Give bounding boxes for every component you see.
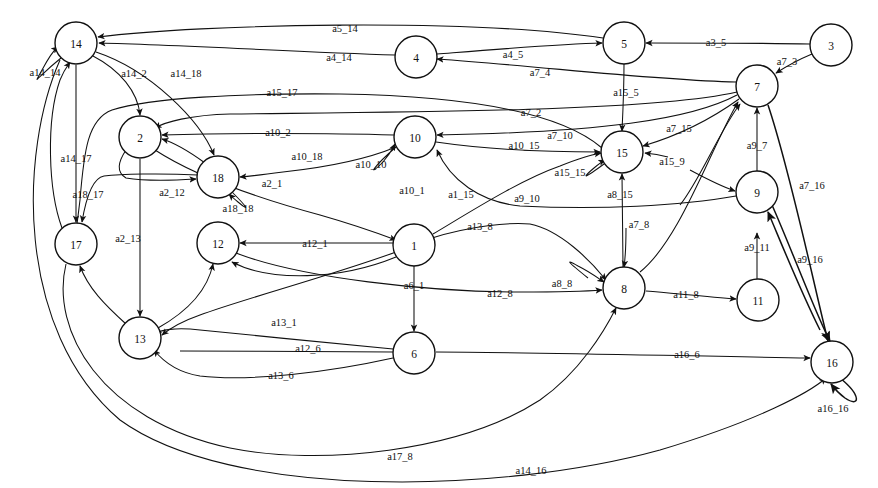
edge-label-a12_8: a12_8	[487, 288, 513, 299]
edge-label-a14_2: a14_2	[121, 68, 147, 79]
edge-label-a14_17: a14_17	[61, 153, 92, 164]
edge-label-a9_11: a9_11	[744, 242, 769, 253]
edge-a13-17	[80, 266, 126, 324]
edge-a9-10	[437, 150, 736, 208]
edge-label-a1_15: a1_15	[448, 189, 474, 200]
edge-label-a13_8: a13_8	[467, 221, 493, 232]
edge-label-a15_5: a15_5	[613, 87, 639, 98]
node-5[interactable]: 5	[603, 22, 645, 64]
edge-label-a18_18: a18_18	[223, 203, 254, 214]
edge-label-a14_14: a14_14	[30, 67, 62, 78]
node-label-2: 2	[137, 132, 143, 144]
edge-label-a7_2: a7_2	[521, 107, 541, 118]
edge-a15-15	[586, 160, 605, 176]
edge-label-a8_8: a8_8	[552, 278, 572, 289]
node-8[interactable]: 8	[603, 267, 645, 309]
edge-label-a15_15: a15_15	[555, 167, 586, 178]
edge-a17-8	[63, 264, 616, 455]
edge-label-a10_2: a10_2	[265, 127, 291, 138]
edge-a7-4	[437, 59, 736, 82]
edge-label-a11_8: a11_8	[673, 289, 698, 300]
edge-label-a18_17: a18_17	[73, 189, 104, 200]
edge-a15-5	[622, 64, 624, 131]
edge-label-a10_18: a10_18	[292, 151, 323, 162]
edge-label-a7_8: a7_8	[629, 219, 649, 230]
edge-a18-2	[162, 139, 205, 163]
node-4[interactable]: 4	[395, 36, 437, 78]
node-label-15: 15	[616, 147, 628, 159]
edge-label-a16_6: a16_6	[674, 349, 700, 360]
node-label-3: 3	[828, 40, 834, 52]
edge-label-a13_6: a13_6	[268, 370, 294, 381]
edge-label-a2_1: a2_1	[262, 178, 282, 189]
edge-layer	[33, 25, 856, 482]
edge-label-a15_17: a15_17	[267, 87, 298, 98]
edge-a17-14	[50, 62, 70, 228]
node-label-8: 8	[621, 283, 627, 295]
edge-label-a16_16: a16_16	[818, 403, 849, 414]
node-label-1: 1	[411, 240, 417, 252]
node-16[interactable]: 16	[811, 341, 853, 383]
node-1[interactable]: 1	[393, 224, 435, 266]
edge-label-a9_10: a9_10	[514, 193, 540, 204]
node-2[interactable]: 2	[119, 116, 161, 158]
node-label-4: 4	[413, 52, 419, 64]
edge-label-a17_8: a17_8	[387, 451, 413, 462]
edge-label-a2_12: a2_12	[159, 187, 185, 198]
edge-label-a2_13: a2_13	[115, 233, 141, 244]
edge-label-a7_4: a7_4	[530, 67, 551, 78]
node-label-5: 5	[621, 38, 627, 50]
edge-label-a7_16: a7_16	[799, 180, 825, 191]
edge-label-a3_5: a3_5	[706, 37, 726, 48]
edge-label-layer: a14_14a5_14a4_14a14_2a14_18a14_17a18_17a…	[30, 23, 849, 476]
node-14[interactable]: 14	[55, 22, 97, 64]
edge-label-a8_15: a8_15	[607, 189, 633, 200]
node-label-9: 9	[754, 187, 760, 199]
node-13[interactable]: 13	[119, 317, 161, 359]
edge-label-a9_16: a9_16	[797, 254, 823, 265]
edge-label-a9_7: a9_7	[747, 140, 767, 151]
edge-label-a15_9: a15_9	[659, 156, 685, 167]
node-9[interactable]: 9	[736, 171, 778, 213]
state-transition-diagram: 144537210151891211781113616 a14_14a5_14a…	[0, 0, 878, 488]
edge-label-a14_18: a14_18	[171, 68, 202, 79]
edge-label-a7_10: a7_10	[547, 130, 573, 141]
edge-a7-10	[437, 95, 737, 135]
edge-a7-8	[624, 228, 626, 267]
node-label-17: 17	[70, 239, 82, 251]
edge-label-a4_5: a4_5	[503, 49, 523, 60]
edge-a16-6	[436, 352, 810, 358]
node-7[interactable]: 7	[736, 65, 778, 107]
edge-a7-2	[155, 92, 737, 128]
node-11[interactable]: 11	[737, 279, 779, 321]
edge-label-a10_1: a10_1	[399, 185, 425, 196]
edge-a14-2	[93, 56, 140, 115]
edge-label-a10_15: a10_15	[509, 140, 540, 151]
node-label-7: 7	[754, 81, 760, 93]
node-label-12: 12	[212, 238, 224, 250]
edge-label-a4_14: a4_14	[326, 52, 352, 63]
node-6[interactable]: 6	[393, 332, 435, 374]
edge-label-a12_6: a12_6	[295, 343, 321, 354]
node-12[interactable]: 12	[197, 222, 239, 264]
edge-label-a7_15: a7_15	[666, 123, 692, 134]
edge-label-a12_1: a12_1	[302, 238, 328, 249]
node-18[interactable]: 18	[197, 156, 239, 198]
edge-a15-9	[690, 170, 735, 191]
edge-label-a7_3: a7_3	[777, 56, 797, 67]
node-label-18: 18	[212, 172, 224, 184]
edge-label-a14_16: a14_16	[516, 465, 547, 476]
node-15[interactable]: 15	[601, 131, 643, 173]
edge-label-a5_14: a5_14	[332, 23, 358, 34]
node-label-14: 14	[70, 38, 82, 50]
node-17[interactable]: 17	[55, 223, 97, 265]
edge-label-a6_1: a6_1	[404, 280, 424, 291]
edge-label-a13_1: a13_1	[271, 317, 297, 328]
node-10[interactable]: 10	[394, 116, 436, 158]
edge-a3-5	[646, 43, 810, 44]
edge-a6-16-left	[180, 351, 393, 352]
node-label-13: 13	[134, 333, 146, 345]
edge-a13-12	[158, 264, 213, 328]
node-3[interactable]: 3	[810, 24, 852, 66]
node-label-10: 10	[409, 132, 421, 144]
